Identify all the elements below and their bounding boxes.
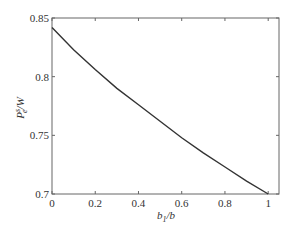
x-tick-label: 0.8: [218, 197, 232, 209]
plot-border: [52, 18, 279, 194]
x-tick-label: 0.4: [132, 197, 146, 209]
x-tick-label: 0.6: [175, 197, 189, 209]
chart: 00.20.40.60.810.70.750.80.85 b1/b Pse/W: [0, 0, 291, 230]
y-tick-label: 0.7: [35, 188, 49, 200]
x-axis-label: b1/b: [157, 209, 176, 224]
x-tick-label: 0.2: [88, 197, 102, 209]
x-tick-label: 1: [265, 197, 271, 209]
y-tick-label: 0.85: [30, 12, 50, 24]
plot-frame: [52, 18, 279, 194]
x-tick-label: 0: [49, 197, 55, 209]
y-axis-label: Pse/W: [13, 96, 29, 119]
y-tick-label: 0.75: [30, 129, 50, 141]
data-line: [52, 27, 268, 194]
y-tick-label: 0.8: [35, 71, 49, 83]
axis-ticks: [52, 18, 279, 194]
